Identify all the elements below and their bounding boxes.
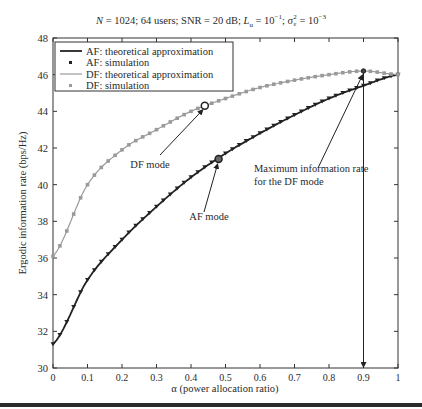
df-sim-marker	[244, 90, 248, 94]
df-mode-label: DF mode	[130, 159, 170, 170]
y-tick-label: 42	[38, 143, 49, 154]
max-rate-label-line1: Maximum information rate	[254, 163, 369, 174]
df-sim-marker	[120, 148, 124, 152]
df-sim-marker	[169, 120, 173, 124]
af-sim-marker	[78, 290, 83, 294]
df-sim-marker	[51, 254, 55, 258]
x-tick-label: 0.2	[116, 372, 129, 383]
df-sim-marker	[100, 166, 104, 170]
df-sim-marker	[217, 99, 221, 103]
y-tick-label: 40	[38, 180, 49, 191]
max-rate-marker	[361, 69, 365, 73]
df-sim-marker	[369, 70, 373, 74]
df-sim-marker	[93, 173, 97, 177]
af-mode-marker	[215, 156, 222, 163]
y-tick-label: 44	[38, 106, 49, 117]
df-sim-marker	[210, 101, 214, 105]
legend-marker-icon	[69, 61, 72, 64]
legend-label: DF: theoretical approximation	[86, 69, 214, 80]
df-sim-marker	[313, 75, 317, 79]
annotations: DF modeAF modeMaximum information ratefo…	[130, 69, 368, 367]
df-sim-marker	[127, 143, 131, 147]
df-sim-marker	[355, 69, 359, 73]
max-rate-label-line2: for the DF mode	[254, 176, 324, 187]
x-tick-label: 0.6	[254, 372, 267, 383]
y-tick-label: 34	[38, 290, 49, 301]
x-axis-label: α (power allocation ratio)	[171, 383, 279, 395]
df-sim-marker	[382, 71, 386, 75]
legend-label: AF: simulation	[86, 57, 150, 68]
df-sim-marker	[293, 78, 297, 82]
df-sim-marker	[348, 70, 352, 74]
y-axis-label: Ergodic information rate (bps/Hz)	[17, 131, 29, 274]
df-sim-marker	[258, 86, 262, 90]
df-sim-marker	[189, 110, 193, 114]
figure-bottom-rule	[0, 403, 422, 407]
df-sim-marker	[196, 107, 200, 111]
af-mode-label: AF mode	[189, 211, 229, 222]
df-sim-marker	[86, 183, 90, 187]
y-tick-label: 46	[38, 70, 49, 81]
af-sim-marker	[64, 320, 69, 324]
df-sim-marker	[141, 135, 145, 139]
df-sim-marker	[279, 81, 283, 85]
af-theory-line	[53, 75, 398, 345]
df-sim-marker	[65, 229, 69, 233]
df-sim-marker	[72, 212, 76, 216]
x-tick-label: 0.9	[357, 372, 370, 383]
x-tick-label: 0.7	[288, 372, 301, 383]
legend: AF: theoretical approximationAF: simulat…	[55, 42, 233, 91]
x-tick-label: 0.3	[150, 372, 163, 383]
df-sim-marker	[320, 74, 324, 78]
x-tick-label: 0.4	[185, 372, 198, 383]
df-sim-marker	[251, 88, 255, 92]
df-sim-marker	[79, 196, 83, 200]
af-sim-marker	[51, 342, 56, 346]
chart-area: 00.10.20.30.40.50.60.70.80.9130323436384…	[0, 0, 422, 409]
df-sim-marker	[341, 71, 345, 75]
af-mode-arrow	[204, 164, 218, 212]
df-sim-marker	[58, 244, 62, 248]
y-tick-label: 32	[38, 326, 49, 337]
df-sim-marker	[327, 73, 331, 77]
y-tick-label: 30	[38, 363, 49, 374]
y-tick-label: 36	[38, 253, 49, 264]
df-sim-marker	[155, 128, 159, 132]
legend-label: AF: theoretical approximation	[86, 46, 214, 57]
df-sim-marker	[389, 72, 393, 76]
df-sim-marker	[334, 72, 338, 76]
df-sim-marker	[307, 76, 311, 80]
df-sim-marker	[182, 113, 186, 117]
df-sim-marker	[224, 97, 228, 101]
x-tick-label: 1	[396, 372, 401, 383]
df-sim-marker	[238, 92, 242, 96]
y-tick-label: 48	[38, 33, 49, 44]
df-sim-marker	[265, 84, 269, 88]
x-tick-label: 0	[51, 372, 56, 383]
max-rate-arrow	[318, 75, 363, 168]
df-sim-marker	[272, 82, 276, 86]
curves	[51, 69, 401, 346]
df-sim-marker	[148, 132, 152, 136]
y-tick-label: 38	[38, 216, 49, 227]
df-sim-marker	[134, 139, 138, 143]
x-tick-label: 0.5	[219, 372, 232, 383]
legend-marker-icon	[69, 84, 72, 87]
af-sim-marker	[71, 305, 76, 309]
df-mode-marker	[201, 102, 208, 109]
x-tick-label: 0.8	[323, 372, 336, 383]
df-sim-marker	[376, 70, 380, 74]
df-sim-marker	[175, 116, 179, 120]
x-tick-label: 0.1	[81, 372, 94, 383]
df-sim-marker	[231, 94, 235, 98]
df-sim-marker	[286, 80, 290, 84]
df-sim-marker	[162, 124, 166, 128]
df-sim-marker	[300, 77, 304, 81]
df-sim-marker	[106, 159, 110, 163]
df-sim-marker	[113, 153, 117, 157]
df-sim-marker	[396, 73, 400, 77]
legend-label: DF: simulation	[86, 80, 150, 91]
